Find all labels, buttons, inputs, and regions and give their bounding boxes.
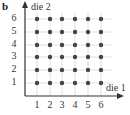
outcome-point	[86, 81, 90, 85]
outcome-point	[35, 68, 39, 72]
y-tick-label: 5	[9, 25, 19, 36]
outcome-point	[73, 30, 77, 34]
outcome-point	[48, 68, 52, 72]
outcome-point	[73, 43, 77, 47]
y-axis-label: die 2	[31, 1, 51, 12]
x-tick-label: 2	[45, 99, 55, 110]
outcome-point	[60, 17, 64, 21]
outcome-point	[86, 17, 90, 21]
outcome-point	[86, 55, 90, 59]
x-tick-label: 4	[70, 99, 80, 110]
outcome-point	[60, 43, 64, 47]
outcome-point	[35, 81, 39, 85]
outcome-point	[60, 55, 64, 59]
outcome-point	[60, 81, 64, 85]
outcome-point	[99, 81, 103, 85]
outcome-point	[35, 43, 39, 47]
outcome-point	[73, 68, 77, 72]
x-axis-label: die 1	[106, 82, 126, 93]
outcome-point	[35, 55, 39, 59]
outcome-point	[99, 17, 103, 21]
outcome-point	[48, 17, 52, 21]
outcome-point	[48, 81, 52, 85]
outcome-point	[73, 17, 77, 21]
outcome-point	[73, 55, 77, 59]
dice-outcome-diagram: b die 2 die 1 123456 123456	[0, 0, 130, 115]
y-tick-label: 1	[9, 76, 19, 87]
outcome-point	[86, 68, 90, 72]
outcome-point	[99, 30, 103, 34]
outcome-point	[35, 30, 39, 34]
outcome-point	[35, 17, 39, 21]
y-tick-label: 2	[9, 63, 19, 74]
y-tick-label: 3	[9, 50, 19, 61]
outcome-point	[48, 43, 52, 47]
x-tick-label: 3	[57, 99, 67, 110]
outcome-point	[86, 30, 90, 34]
x-axis-arrow-icon	[117, 93, 124, 99]
outcome-point	[99, 43, 103, 47]
y-tick-label: 4	[9, 38, 19, 49]
outcome-point	[73, 81, 77, 85]
outcome-points	[35, 17, 103, 85]
x-tick-label: 1	[32, 99, 42, 110]
outcome-point	[60, 30, 64, 34]
outcome-point	[99, 55, 103, 59]
x-tick-label: 6	[96, 99, 106, 110]
outcome-point	[48, 30, 52, 34]
outcome-point	[48, 55, 52, 59]
outcome-point	[60, 68, 64, 72]
plot-area	[0, 0, 130, 115]
y-axis-arrow-icon	[22, 1, 28, 8]
outcome-point	[86, 43, 90, 47]
outcome-point	[99, 68, 103, 72]
x-tick-label: 5	[83, 99, 93, 110]
y-tick-label: 6	[9, 12, 19, 23]
